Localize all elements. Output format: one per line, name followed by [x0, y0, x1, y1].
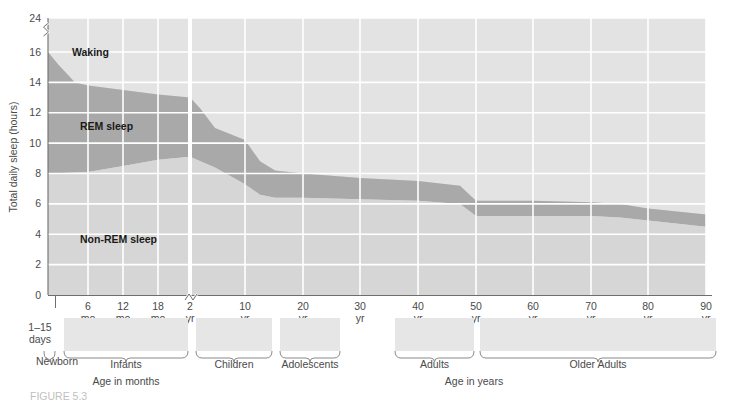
x-tick-value-80yr: 80 — [642, 300, 654, 312]
age-group-block-adolescents — [280, 318, 340, 351]
y-tick-8: 8 — [35, 167, 41, 179]
figure-caption: FIGURE 5.3 — [30, 390, 87, 401]
waking-label: Waking — [72, 46, 109, 58]
x-tick-value-10yr: 10 — [239, 300, 251, 312]
y-axis-tick-labels: 024681012141624 — [29, 12, 41, 301]
age-group-label-adults: Adults — [420, 358, 449, 370]
rem-sleep-label: REM sleep — [80, 120, 133, 132]
chart-canvas: 024681012141624 6mo12mo18mo2yr10yr20yr30… — [0, 0, 731, 401]
x-tick-value-18mo: 18 — [152, 300, 164, 312]
y-axis-title: Total daily sleep (hours) — [7, 102, 19, 213]
age-group-label-older-adults: Older Adults — [569, 358, 626, 370]
age-group-label-infants: Infants — [110, 358, 142, 370]
x-tick-value-50yr: 50 — [470, 300, 482, 312]
age-group-brackets — [44, 318, 716, 362]
x-tick-value-70yr: 70 — [585, 300, 597, 312]
x-tick-value-90yr: 90 — [700, 300, 712, 312]
x-tick-value-12mo: 12 — [117, 300, 129, 312]
y-tick-16: 16 — [29, 46, 41, 58]
y-tick-24: 24 — [29, 12, 41, 24]
x-tick-value-6mo: 6 — [85, 300, 91, 312]
age-group-labels: InfantsChildrenAdolescentsAdultsOlder Ad… — [110, 358, 626, 370]
y-tick-6: 6 — [35, 197, 41, 209]
age-group-block-adults — [395, 318, 474, 351]
x-tick-unit-30yr: yr — [356, 312, 365, 324]
y-tick-14: 14 — [29, 76, 41, 88]
sleep-lifespan-chart: 024681012141624 6mo12mo18mo2yr10yr20yr30… — [0, 0, 731, 401]
age-group-block-older-adults — [480, 318, 716, 351]
x-axis-title-right: Age in years — [445, 375, 503, 387]
age-group-label-children: Children — [214, 358, 253, 370]
x-tick-value-20yr: 20 — [297, 300, 309, 312]
age-group-block-children — [196, 318, 272, 351]
y-tick-12: 12 — [29, 106, 41, 118]
y-tick-10: 10 — [29, 137, 41, 149]
x-tick-value-40yr: 40 — [412, 300, 424, 312]
age-group-label-adolescents: Adolescents — [281, 358, 338, 370]
x-axis-title-left: Age in months — [92, 375, 159, 387]
age-group-block-infants — [64, 318, 188, 351]
newborn-group-label: Newborn — [36, 355, 78, 367]
newborn-days-line1: 1–15 — [28, 321, 52, 333]
x-tick-value-60yr: 60 — [527, 300, 539, 312]
x-tick-value-2yr: 2 — [187, 300, 193, 312]
y-tick-0: 0 — [35, 289, 41, 301]
y-tick-4: 4 — [35, 228, 41, 240]
newborn-days-line2: days — [29, 333, 51, 345]
x-tick-value-30yr: 30 — [354, 300, 366, 312]
y-tick-2: 2 — [35, 258, 41, 270]
non-rem-sleep-label: Non-REM sleep — [80, 233, 157, 245]
